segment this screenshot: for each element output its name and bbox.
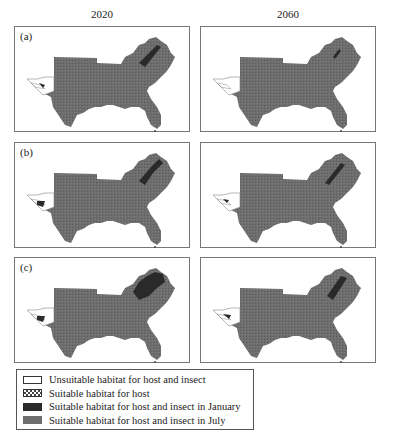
legend-item-january: Suitable habitat for host and insect in … <box>23 400 247 414</box>
map-southeast-us <box>201 258 377 364</box>
map-southeast-us <box>201 27 377 133</box>
map-southeast-us <box>15 143 191 249</box>
map-southeast-us <box>15 27 191 133</box>
legend: Unsuitable habitat for host and insect S… <box>16 369 254 430</box>
swatch-gray-icon <box>23 416 42 424</box>
map-southeast-us <box>201 143 377 249</box>
map-southeast-us <box>15 258 191 364</box>
legend-item-july: Suitable habitat for host and insect in … <box>23 414 247 428</box>
column-title-2060: 2060 <box>258 8 318 20</box>
map-panel-b-2060 <box>200 142 376 248</box>
map-panel-c-2020: (c) <box>14 257 190 363</box>
swatch-white-icon <box>23 376 42 384</box>
panel-label-a: (a) <box>20 30 32 42</box>
map-panel-b-2020: (b) <box>14 142 190 248</box>
swatch-dark-icon <box>23 403 42 411</box>
panel-label-b: (b) <box>20 146 33 158</box>
column-title-2020: 2020 <box>72 8 132 20</box>
swatch-checkered-icon <box>23 389 42 397</box>
panel-label-c: (c) <box>20 261 32 273</box>
map-panel-a-2060 <box>200 26 376 132</box>
legend-item-unsuitable: Unsuitable habitat for host and insect <box>23 373 247 387</box>
legend-item-host: Suitable habitat for host <box>23 387 247 401</box>
map-panel-c-2060 <box>200 257 376 363</box>
map-panel-a-2020: (a) <box>14 26 190 132</box>
